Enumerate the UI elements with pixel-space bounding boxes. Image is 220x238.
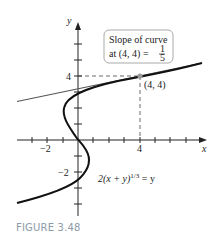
- point-label: (4, 4): [144, 79, 166, 91]
- y-tick-label-neg2: −2: [58, 167, 69, 178]
- figure-plot: y x −2 4 4 −2 (4, 4) 2(x + y)1/3 = y Slo…: [0, 0, 220, 238]
- y-axis-arrow-icon: [75, 22, 81, 30]
- callout-fraction-den: 5: [160, 52, 165, 63]
- x-axis-label: x: [201, 143, 207, 154]
- tangent-point: [137, 73, 142, 78]
- x-tick-label-neg2: −2: [40, 143, 51, 154]
- slope-callout: Slope of curve at (4, 4) = 1 5: [104, 30, 173, 63]
- x-tick-label-4: 4: [137, 143, 142, 154]
- y-axis-label: y: [66, 15, 72, 26]
- figure-caption: FIGURE 3.48: [16, 222, 81, 233]
- y-tick-label-4: 4: [66, 71, 71, 82]
- curve-equation: 2(x + y)1/3 = y: [98, 172, 155, 185]
- guide-lines: [78, 76, 140, 137]
- callout-line2: at (4, 4) =: [109, 48, 149, 60]
